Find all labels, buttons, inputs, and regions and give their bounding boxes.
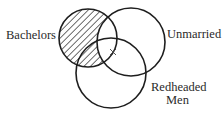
venn-diagram: Bachelors Unmarried Redheaded Men xyxy=(0,0,224,114)
redheaded-label-line1: Redheaded xyxy=(151,80,207,94)
bachelors-label: Bachelors xyxy=(6,28,56,42)
hatched-region xyxy=(55,5,125,75)
redheaded-label-line2: Men xyxy=(166,93,190,107)
unmarried-label: Unmarried xyxy=(167,27,222,41)
